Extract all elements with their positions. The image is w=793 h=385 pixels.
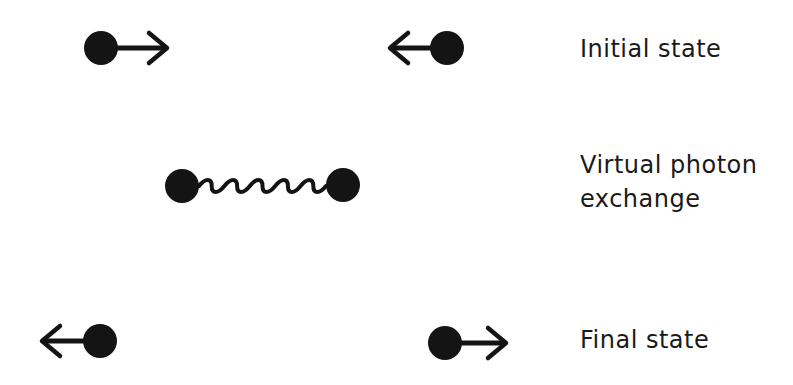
virtual-label-line1: Virtual photon	[580, 148, 757, 182]
virtual-photon-exchange-label: Virtual photon exchange	[580, 148, 757, 216]
final-stage	[42, 324, 506, 360]
particle-final-1	[42, 324, 117, 358]
electron-dot	[430, 31, 464, 65]
electron-dot	[326, 168, 360, 202]
particle-initial-2	[390, 31, 464, 65]
particle-final-2	[428, 326, 506, 360]
electron-dot	[84, 31, 118, 65]
particle-virtual-1	[165, 169, 199, 203]
electron-dot	[165, 169, 199, 203]
particles-layer	[42, 31, 506, 360]
virtual-photon-wavy-line	[199, 180, 326, 192]
initial-state-label: Initial state	[580, 32, 721, 66]
particle-initial-1	[84, 31, 167, 65]
virtual-label-line2: exchange	[580, 182, 757, 216]
electron-dot	[83, 324, 117, 358]
virtual-stage	[165, 168, 360, 203]
electron-dot	[428, 326, 462, 360]
final-state-label: Final state	[580, 323, 709, 357]
initial-stage	[84, 31, 464, 65]
particle-virtual-2	[326, 168, 360, 202]
